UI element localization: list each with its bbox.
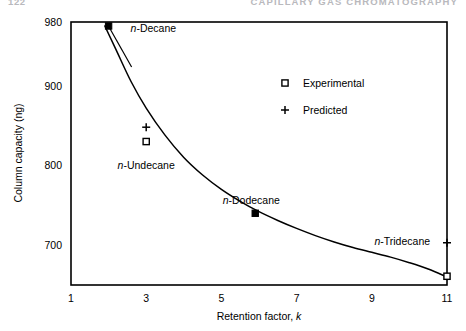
y-tick-label: 700 [44, 239, 62, 251]
y-tick-label: 900 [44, 80, 62, 92]
figure-column-capacity-vs-retention-factor: 700800900980 1357911 n-Decanen-Dodecanen… [0, 0, 466, 331]
x-tick-label: 3 [143, 292, 149, 304]
experimental-open-square-marker [444, 273, 450, 279]
legend-open-square-icon [282, 80, 288, 86]
x-axis-title: Retention factor, k [217, 310, 302, 322]
n-decane-filled-square-marker [105, 23, 111, 29]
n-dodecane-filled-square-marker [252, 210, 258, 216]
x-tick-label: 5 [218, 292, 224, 304]
x-axis-ticks: 1357911 [68, 292, 453, 304]
y-tick-label: 800 [44, 159, 62, 171]
legend-label-predicted: Predicted [303, 104, 348, 116]
experimental-open-square-marker [143, 138, 149, 144]
y-axis-title: Column capacity (ng) [12, 103, 24, 202]
y-axis-ticks: 700800900980 [44, 16, 62, 251]
legend-label-experimental: Experimental [303, 77, 364, 89]
x-tick-label: 1 [68, 292, 74, 304]
series-label-n-dodecane: n-Dodecane [223, 194, 280, 206]
series-label-n-decane: n-Decane [131, 22, 177, 34]
x-tick-label: 11 [442, 292, 453, 304]
x-tick-label: 7 [294, 292, 300, 304]
series-label-n-undecane: n-Undecane [118, 159, 175, 171]
series-label-n-tridecane: n-Tridecane [374, 235, 430, 247]
x-tick-label: 9 [369, 292, 375, 304]
y-tick-label: 980 [44, 16, 62, 28]
chart-canvas: 700800900980 1357911 n-Decanen-Dodecanen… [0, 0, 466, 331]
